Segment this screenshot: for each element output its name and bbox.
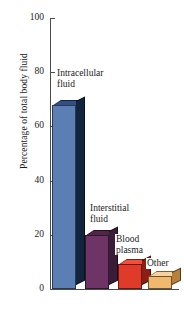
y-tick-0 <box>50 289 55 290</box>
x-axis-line <box>50 289 179 290</box>
annotation-intracellular-fluid: Intracellular fluid <box>56 68 104 89</box>
bar-intracellular-fluid <box>52 105 76 289</box>
bar-face-other <box>148 276 172 289</box>
y-tick-label-40: 40 <box>14 176 44 186</box>
bar-interstitial-fluid <box>85 235 109 289</box>
bar-face-intracellular-fluid <box>52 105 76 289</box>
y-axis-title: Percentage of total body fluid <box>19 1 29 221</box>
y-tick-80 <box>50 72 55 73</box>
y-tick-label-100: 100 <box>14 13 44 23</box>
bar-other <box>148 276 172 289</box>
y-tick-label-80: 80 <box>14 67 44 77</box>
bar-face-interstitial-fluid <box>85 235 109 289</box>
y-tick-100 <box>50 18 55 19</box>
y-axis-line <box>50 18 51 289</box>
bar-side-intracellular-fluid <box>76 97 85 285</box>
y-tick-label-60: 60 <box>14 121 44 131</box>
bar-chart: Percentage of total body fluid 100 80 60… <box>0 0 184 314</box>
annotation-other: Other <box>146 258 170 269</box>
y-tick-label-0: 0 <box>14 284 44 294</box>
bar-face-blood-plasma <box>118 264 142 289</box>
bar-side-other <box>172 268 181 285</box>
bar-blood-plasma <box>118 264 142 289</box>
y-tick-label-20: 20 <box>14 230 44 240</box>
annotation-interstitial-fluid: Interstitial fluid <box>89 203 130 224</box>
annotation-blood-plasma: Blood plasma <box>115 234 144 255</box>
